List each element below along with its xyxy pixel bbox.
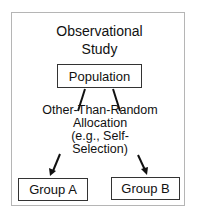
arrow-right-shaft [138,155,145,170]
group-b-box: Group B [111,177,180,200]
group-b-label: Group B [121,181,169,196]
group-a-label: Group A [29,182,77,197]
allocation-label: Other-Than-Random Allocation (e.g., Self… [30,104,170,156]
group-a-box: Group A [18,178,88,201]
arrow-left-shaft [53,154,60,171]
arrow-right-head-icon [141,167,148,175]
arrow-left-head-icon [49,168,56,176]
allocation-line-4: Selection) [30,143,170,156]
